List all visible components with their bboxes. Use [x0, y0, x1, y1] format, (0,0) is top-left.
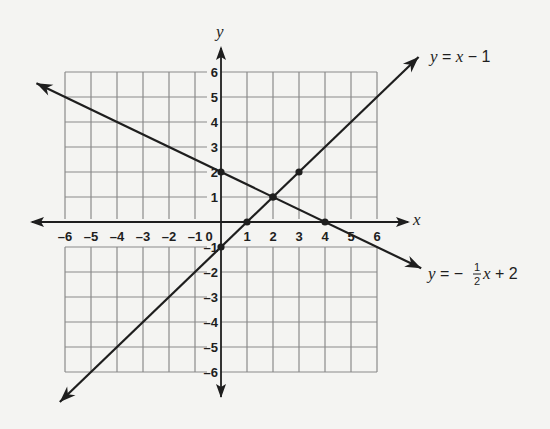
data-point: [321, 218, 328, 225]
eq2-equals: = −: [436, 265, 464, 282]
x-tick-label: 2: [269, 229, 276, 244]
y-tick-label: 1: [211, 190, 218, 205]
coordinate-plane: –6–5–4–3–2–10123456654321–1–2–3–4–5–6 x …: [0, 0, 550, 429]
eq2-fraction-numerator: 1: [474, 261, 480, 273]
x-tick-label: –5: [84, 229, 98, 244]
x-tick-label: 6: [373, 229, 380, 244]
y-tick-label: –4: [204, 315, 219, 330]
eq2-fraction-denominator: 2: [474, 275, 480, 287]
y-tick-label: –6: [204, 365, 218, 380]
eq2-tail: x + 2: [482, 264, 518, 283]
x-tick-label: –1: [188, 229, 202, 244]
y-tick-label: 6: [211, 65, 218, 80]
x-tick-label: 1: [243, 229, 250, 244]
x-tick-label: 3: [295, 229, 302, 244]
data-point: [217, 243, 224, 250]
y-tick-label: 5: [211, 90, 218, 105]
x-tick-label: –6: [58, 229, 72, 244]
x-tick-label: –3: [136, 229, 150, 244]
equation-label-line-2: y = −: [426, 264, 463, 283]
eq2-rest: + 2: [491, 265, 518, 282]
data-point: [295, 168, 302, 175]
data-point: [269, 193, 276, 200]
eq1-equals: =: [438, 48, 456, 65]
y-tick-label: –2: [204, 265, 218, 280]
data-point: [217, 168, 224, 175]
x-tick-label: –2: [162, 229, 176, 244]
data-point: [243, 218, 250, 225]
y-axis-label: y: [214, 22, 224, 41]
eq2-lhs: y: [426, 264, 436, 283]
axes: [30, 46, 410, 398]
eq1-rest: − 1: [463, 48, 490, 65]
y-tick-label: –5: [204, 340, 218, 355]
y-tick-label: 3: [211, 140, 218, 155]
x-tick-label: –4: [110, 229, 125, 244]
y-tick-label: 4: [211, 115, 219, 130]
x-tick-label: 4: [321, 229, 329, 244]
eq1-lhs: y: [428, 47, 438, 66]
x-axis-label: x: [412, 210, 421, 229]
equation-label-line-1: y = x − 1: [428, 47, 491, 66]
y-tick-label: –3: [204, 290, 218, 305]
